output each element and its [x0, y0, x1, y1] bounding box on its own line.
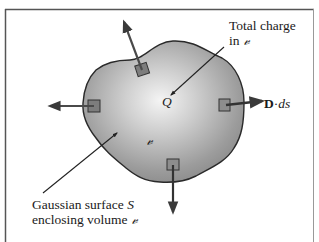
gaussian-surface-label: Gaussian surface S enclosing volume 𝓋: [32, 197, 138, 227]
surface-element-left: [50, 100, 100, 112]
total-charge-line2: in 𝓋: [229, 33, 296, 48]
surface-symbol: S: [127, 197, 134, 212]
gaussian-surface-line2: enclosing volume 𝓋: [32, 212, 138, 227]
surface-element-symbol: ds: [278, 96, 290, 111]
total-charge-label: Total charge in 𝓋: [229, 18, 296, 48]
charge-symbol: Q: [162, 94, 172, 109]
volume-symbol: 𝓋: [243, 33, 250, 48]
surface-leader-line: [43, 133, 117, 193]
volume-symbol: 𝓋: [131, 212, 138, 227]
volume-symbol-inside: 𝓋: [146, 133, 153, 148]
total-charge-line1: Total charge: [229, 18, 296, 33]
gaussian-surface: [83, 41, 244, 182]
gauss-law-diagram: Total charge in 𝓋 Q 𝓋 D·ds Gaussian surf…: [0, 0, 319, 242]
flux-label: D·ds: [264, 96, 290, 111]
flux-vector-symbol: D: [264, 96, 274, 111]
surface-element-bottom: [167, 159, 179, 212]
gaussian-surface-line1: Gaussian surface S: [32, 197, 138, 212]
